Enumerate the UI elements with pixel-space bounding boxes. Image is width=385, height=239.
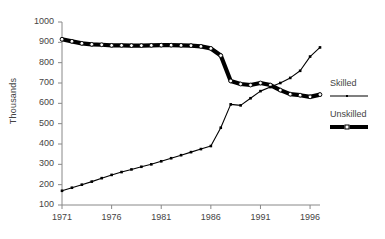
chart-root: Thousands 100200300400500600700800900100… [0,0,385,239]
unskilled-marker [298,93,302,97]
unskilled-marker [139,44,143,48]
line-chart-canvas [0,0,385,239]
skilled-marker [71,186,74,189]
skilled-marker [170,157,173,160]
unskilled-marker [249,83,253,87]
skilled-marker [81,183,84,186]
legend-key-skilled [330,91,385,101]
unskilled-marker [70,39,74,43]
unskilled-marker [199,45,203,49]
y-tick-label: 1000 [20,16,54,26]
series-line-skilled [61,46,322,192]
x-tick-label: 1996 [290,212,330,222]
skilled-marker [279,82,282,85]
x-tick-label: 1981 [141,212,181,222]
unskilled-marker [278,88,282,92]
skilled-marker [319,46,322,49]
skilled-marker [190,151,193,154]
unskilled-marker [308,95,312,99]
skilled-marker [219,126,222,129]
unskilled-marker [169,43,173,47]
y-tick-label: 600 [20,97,54,107]
legend-marker-square-icon [346,95,348,97]
y-tick-label: 200 [20,179,54,189]
y-tick-label: 800 [20,57,54,67]
y-tick-label: 400 [20,138,54,148]
skilled-marker [100,177,103,180]
x-tick-label: 1976 [92,212,132,222]
y-tick-label: 500 [20,118,54,128]
unskilled-marker [159,43,163,47]
skilled-marker [130,168,133,171]
skilled-marker [180,154,183,157]
legend-line-thin-icon [330,96,368,97]
y-axis-title: Thousands [8,66,18,136]
legend-label-unskilled: Unskilled [330,109,385,119]
y-tick-label: 900 [20,36,54,46]
unskilled-marker [90,42,94,46]
y-tick-label: 300 [20,158,54,168]
skilled-marker [160,160,163,163]
unskilled-marker [80,41,84,45]
unskilled-marker [239,82,243,86]
skilled-marker [269,86,272,89]
skilled-marker [120,171,123,174]
y-axis-ticks [58,22,62,205]
unskilled-marker [120,43,124,47]
unskilled-marker [219,54,223,58]
series-line-unskilled [60,37,322,98]
unskilled-marker [149,43,153,47]
x-tick-label: 1986 [191,212,231,222]
unskilled-marker [229,79,233,83]
unskilled-marker [60,37,64,41]
skilled-marker [229,103,232,106]
skilled-marker [140,165,143,168]
skilled-marker [239,104,242,107]
skilled-marker [150,163,153,166]
skilled-marker [210,145,213,148]
x-tick-label: 1971 [42,212,82,222]
x-tick-label: 1991 [240,212,280,222]
skilled-polyline [62,47,320,190]
unskilled-marker [318,93,322,97]
skilled-marker [249,97,252,100]
unskilled-marker [100,43,104,47]
skilled-marker [309,55,312,58]
skilled-marker [200,148,203,151]
unskilled-marker [259,81,263,85]
chart-legend: Skilled Unskilled [330,78,385,140]
unskilled-marker [209,47,213,51]
y-tick-label: 100 [20,199,54,209]
unskilled-marker [110,43,114,47]
x-axis-ticks [62,205,310,209]
skilled-marker [259,90,262,93]
y-tick-label: 700 [20,77,54,87]
unskilled-marker [130,44,134,48]
skilled-marker [299,70,302,73]
skilled-marker [90,180,93,183]
skilled-marker [61,189,64,192]
unskilled-marker [288,92,292,96]
unskilled-marker [189,44,193,48]
unskilled-marker [179,43,183,47]
skilled-marker [110,174,113,177]
legend-key-unskilled [330,122,385,132]
legend-label-skilled: Skilled [330,78,385,88]
skilled-marker [289,77,292,80]
legend-marker-circle-icon [345,125,350,130]
